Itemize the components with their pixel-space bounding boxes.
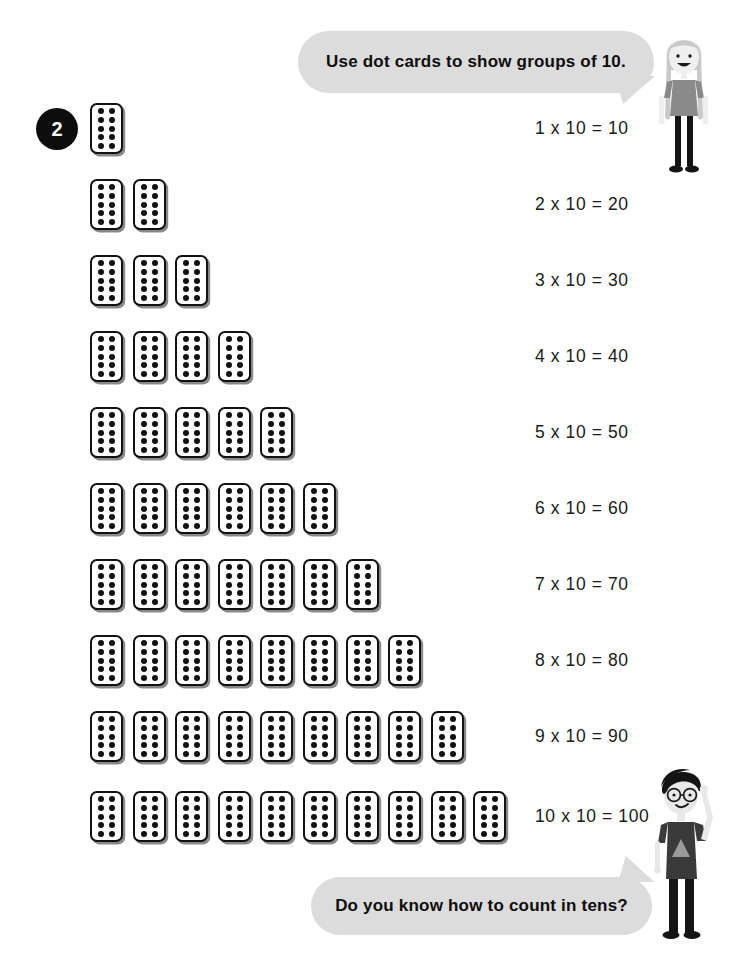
dot: [237, 488, 243, 494]
dot-card: [175, 559, 208, 610]
dot: [183, 805, 189, 811]
dot: [194, 354, 200, 360]
dot: [141, 219, 147, 225]
dot: [481, 805, 487, 811]
dot-card: [133, 791, 166, 842]
dot: [279, 523, 285, 529]
dot: [109, 675, 115, 681]
dot: [268, 564, 274, 570]
dot: [268, 751, 274, 757]
dot: [365, 675, 371, 681]
dot: [141, 430, 147, 436]
dot: [183, 278, 189, 284]
dot: [365, 666, 371, 672]
dot: [311, 640, 317, 646]
dot: [279, 675, 285, 681]
dot: [152, 184, 158, 190]
dot: [109, 412, 115, 418]
dot: [98, 362, 104, 368]
dot: [141, 751, 147, 757]
dot: [322, 523, 328, 529]
dot-grid: [183, 260, 200, 300]
dot: [226, 822, 232, 828]
dot: [311, 488, 317, 494]
dot: [194, 649, 200, 655]
dot-card: [260, 791, 293, 842]
dot: [450, 814, 456, 820]
dot: [98, 742, 104, 748]
equation: 10 x 10 = 100: [535, 806, 649, 827]
dot: [450, 716, 456, 722]
dot: [322, 742, 328, 748]
dot-grid: [311, 640, 328, 680]
dot: [279, 814, 285, 820]
equation: 7 x 10 = 70: [535, 574, 629, 595]
dot: [268, 822, 274, 828]
dot: [226, 640, 232, 646]
dot: [279, 716, 285, 722]
dot: [450, 725, 456, 731]
boy-character: [643, 757, 729, 945]
dot-grid: [311, 564, 328, 604]
dot: [194, 412, 200, 418]
dot: [268, 497, 274, 503]
dot: [152, 716, 158, 722]
dot: [194, 716, 200, 722]
dot: [268, 716, 274, 722]
dot: [279, 751, 285, 757]
dot: [439, 796, 445, 802]
dot-card-row: [90, 255, 218, 306]
dot-card-row: [90, 559, 388, 610]
dot-grid: [141, 412, 158, 452]
dot: [183, 599, 189, 605]
dot: [268, 582, 274, 588]
dot-card: [346, 711, 379, 762]
dot: [322, 497, 328, 503]
dot: [141, 354, 147, 360]
dot: [226, 506, 232, 512]
dot: [311, 649, 317, 655]
dot: [311, 666, 317, 672]
dot: [98, 649, 104, 655]
dot: [322, 725, 328, 731]
dot: [226, 649, 232, 655]
dot: [226, 430, 232, 436]
dot: [183, 286, 189, 292]
dot: [194, 345, 200, 351]
dot: [279, 438, 285, 444]
dot: [450, 805, 456, 811]
dot: [141, 514, 147, 520]
dot: [396, 805, 402, 811]
dot: [152, 590, 158, 596]
dot: [152, 805, 158, 811]
dot: [109, 716, 115, 722]
dot: [152, 640, 158, 646]
dot: [322, 796, 328, 802]
dot: [98, 219, 104, 225]
dot-grid: [354, 640, 371, 680]
dot: [109, 649, 115, 655]
dot: [109, 371, 115, 377]
dot: [183, 573, 189, 579]
dot: [109, 143, 115, 149]
dot: [407, 640, 413, 646]
dot: [152, 371, 158, 377]
dot-card: [303, 791, 336, 842]
dot-grid: [439, 716, 456, 756]
dot-card: [388, 791, 421, 842]
dot-card: [175, 255, 208, 306]
dot: [183, 751, 189, 757]
dot: [396, 831, 402, 837]
dot: [237, 506, 243, 512]
dot: [109, 219, 115, 225]
dot: [354, 822, 360, 828]
dot: [365, 742, 371, 748]
dot: [237, 796, 243, 802]
dot: [194, 582, 200, 588]
dot: [322, 488, 328, 494]
dot-card-row: [90, 635, 431, 686]
dot: [237, 590, 243, 596]
dot-grid: [98, 716, 115, 756]
dot: [141, 831, 147, 837]
dot-card: [473, 791, 506, 842]
